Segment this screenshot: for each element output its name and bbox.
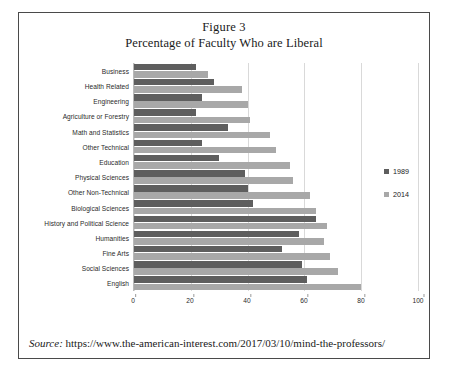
category-label: Engineering — [93, 98, 129, 105]
bar-2014[interactable] — [134, 238, 324, 245]
bar-1989[interactable] — [134, 124, 228, 131]
bar-row: Fine Arts — [134, 246, 418, 261]
category-label: History and Political Science — [44, 219, 129, 226]
bar-1989[interactable] — [134, 79, 214, 86]
category-label: Humanities — [96, 234, 129, 241]
legend-swatch-icon-2014 — [384, 192, 389, 197]
category-label: English — [107, 280, 129, 287]
plot-region: BusinessHealth RelatedEngineeringAgricul… — [133, 63, 418, 291]
bar-2014[interactable] — [134, 177, 293, 184]
figure-container: Figure 3 Percentage of Faculty Who are L… — [18, 12, 430, 359]
bar-1989[interactable] — [134, 231, 299, 238]
category-label: Other Non-Technical — [68, 189, 129, 196]
bar-row: Business — [134, 63, 418, 78]
bar-1989[interactable] — [134, 109, 196, 116]
bar-1989[interactable] — [134, 261, 302, 268]
bar-2014[interactable] — [134, 208, 316, 215]
bar-2014[interactable] — [134, 268, 338, 275]
category-label: Social Sciences — [82, 265, 129, 272]
bar-2014[interactable] — [134, 162, 290, 169]
bar-1989[interactable] — [134, 170, 245, 177]
source-note: Source: https://www.the-american-interes… — [29, 336, 419, 350]
x-tick-mark-0 — [135, 294, 136, 297]
bar-1989[interactable] — [134, 94, 202, 101]
bar-1989[interactable] — [134, 64, 196, 71]
bar-2014[interactable] — [134, 86, 242, 93]
legend-item-2014[interactable]: 2014 — [384, 190, 409, 199]
legend-item-1989[interactable]: 1989 — [384, 167, 409, 176]
x-tick-label-40: 40 — [243, 297, 250, 304]
x-tick-mark-80 — [365, 294, 366, 297]
bar-row: Humanities — [134, 230, 418, 245]
bar-row: Health Related — [134, 78, 418, 93]
bar-row: Math and Statistics — [134, 124, 418, 139]
bar-2014[interactable] — [134, 192, 310, 199]
category-label: Fine Arts — [103, 250, 129, 257]
category-label: Business — [102, 67, 129, 74]
bar-1989[interactable] — [134, 216, 316, 223]
bar-1989[interactable] — [134, 140, 202, 147]
x-tick-label-80: 80 — [357, 297, 364, 304]
category-label: Other Technical — [83, 143, 129, 150]
category-label: Health Related — [85, 83, 129, 90]
bar-row: History and Political Science — [134, 215, 418, 230]
bar-2014[interactable] — [134, 253, 330, 260]
gridline-100 — [418, 63, 419, 291]
source-url: https://www.the-american-interest.com/20… — [66, 337, 385, 349]
bar-row: Physical Sciences — [134, 170, 418, 185]
bar-1989[interactable] — [134, 185, 248, 192]
bar-row: Social Sciences — [134, 261, 418, 276]
figure-title: Figure 3 Percentage of Faculty Who are L… — [19, 13, 429, 51]
bar-2014[interactable] — [134, 132, 270, 139]
bar-row: Agriculture or Forestry — [134, 109, 418, 124]
bar-row: English — [134, 276, 418, 291]
bar-row: Biological Sciences — [134, 200, 418, 215]
figure-number: Figure 3 — [19, 20, 429, 36]
bar-1989[interactable] — [134, 276, 307, 283]
bar-row: Education — [134, 154, 418, 169]
legend-label-1989: 1989 — [393, 167, 409, 176]
x-tick-label-100: 100 — [412, 297, 423, 304]
x-tick-label-0: 0 — [131, 297, 135, 304]
figure-caption: Percentage of Faculty Who are Liberal — [19, 36, 429, 52]
x-tick-mark-40 — [251, 294, 252, 297]
category-label: Agriculture or Forestry — [63, 113, 129, 120]
bar-2014[interactable] — [134, 117, 250, 124]
legend-label-2014: 2014 — [393, 190, 409, 199]
x-tick-label-60: 60 — [300, 297, 307, 304]
legend-swatch-icon-1989 — [384, 169, 389, 174]
chart-area: BusinessHealth RelatedEngineeringAgricul… — [25, 59, 423, 317]
x-tick-mark-20 — [194, 294, 195, 297]
category-label: Biological Sciences — [71, 204, 129, 211]
source-label: Source: — [29, 337, 63, 349]
x-tick-mark-100 — [424, 294, 425, 297]
bar-row: Other Technical — [134, 139, 418, 154]
bar-1989[interactable] — [134, 200, 253, 207]
bar-2014[interactable] — [134, 147, 276, 154]
x-axis-ticks: 020406080100 — [133, 297, 418, 311]
x-tick-mark-60 — [308, 294, 309, 297]
category-label: Physical Sciences — [75, 174, 129, 181]
category-label: Education — [99, 158, 129, 165]
category-label: Math and Statistics — [72, 128, 129, 135]
bar-row: Engineering — [134, 94, 418, 109]
chart-legend: 1989 2014 — [384, 167, 409, 213]
bar-rows: BusinessHealth RelatedEngineeringAgricul… — [134, 63, 418, 291]
bar-row: Other Non-Technical — [134, 185, 418, 200]
x-tick-label-20: 20 — [186, 297, 193, 304]
bar-2014[interactable] — [134, 223, 327, 230]
bar-2014[interactable] — [134, 284, 361, 291]
bar-2014[interactable] — [134, 71, 208, 78]
bar-1989[interactable] — [134, 155, 219, 162]
bar-1989[interactable] — [134, 246, 282, 253]
bar-2014[interactable] — [134, 101, 248, 108]
